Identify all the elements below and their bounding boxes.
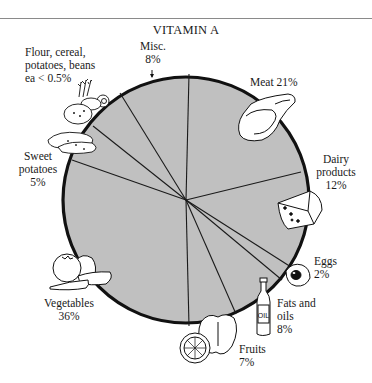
label-fruits-value: 7%	[239, 356, 266, 369]
label-flour-line2: potatoes, beans	[25, 59, 95, 72]
label-dairy: Dairy products 12%	[306, 153, 366, 192]
label-eggs-value: 2%	[314, 268, 337, 281]
label-sweet-potatoes-line1: Sweet	[14, 150, 62, 163]
label-vegetables: Vegetables 36%	[38, 297, 100, 323]
label-sweet-potatoes: Sweet potatoes 5%	[14, 150, 62, 189]
label-dairy-value: 12%	[306, 179, 366, 192]
label-misc-value: 8%	[136, 53, 170, 66]
label-flour: Flour, cereal, potatoes, beans ea < 0.5%	[25, 46, 95, 85]
label-fats-line1: Fats and	[277, 297, 316, 310]
label-misc: Misc. 8%	[136, 40, 170, 66]
label-fruits: Fruits 7%	[239, 343, 266, 369]
egg-icon	[286, 264, 310, 286]
label-flour-line1: Flour, cereal,	[25, 46, 95, 59]
label-sweet-potatoes-line2: potatoes	[14, 163, 62, 176]
label-fats: Fats and oils 8%	[277, 297, 316, 336]
label-flour-value: ea < 0.5%	[25, 72, 95, 85]
label-vegetables-name: Vegetables	[38, 297, 100, 310]
misc-pointer-icon	[150, 70, 154, 78]
label-dairy-line1: Dairy	[306, 153, 366, 166]
label-eggs-name: Eggs	[314, 255, 337, 268]
label-vegetables-value: 36%	[38, 310, 100, 323]
svg-text:OIL: OIL	[258, 312, 269, 319]
label-fats-line2: oils	[277, 310, 316, 323]
label-fats-value: 8%	[277, 323, 316, 336]
label-fruits-name: Fruits	[239, 343, 266, 356]
label-misc-name: Misc.	[136, 40, 170, 53]
label-sweet-potatoes-value: 5%	[14, 176, 62, 189]
label-dairy-line2: products	[306, 166, 366, 179]
label-eggs: Eggs 2%	[314, 255, 337, 281]
label-meat-text: Meat 21%	[250, 76, 298, 89]
label-meat: Meat 21%	[250, 76, 298, 89]
